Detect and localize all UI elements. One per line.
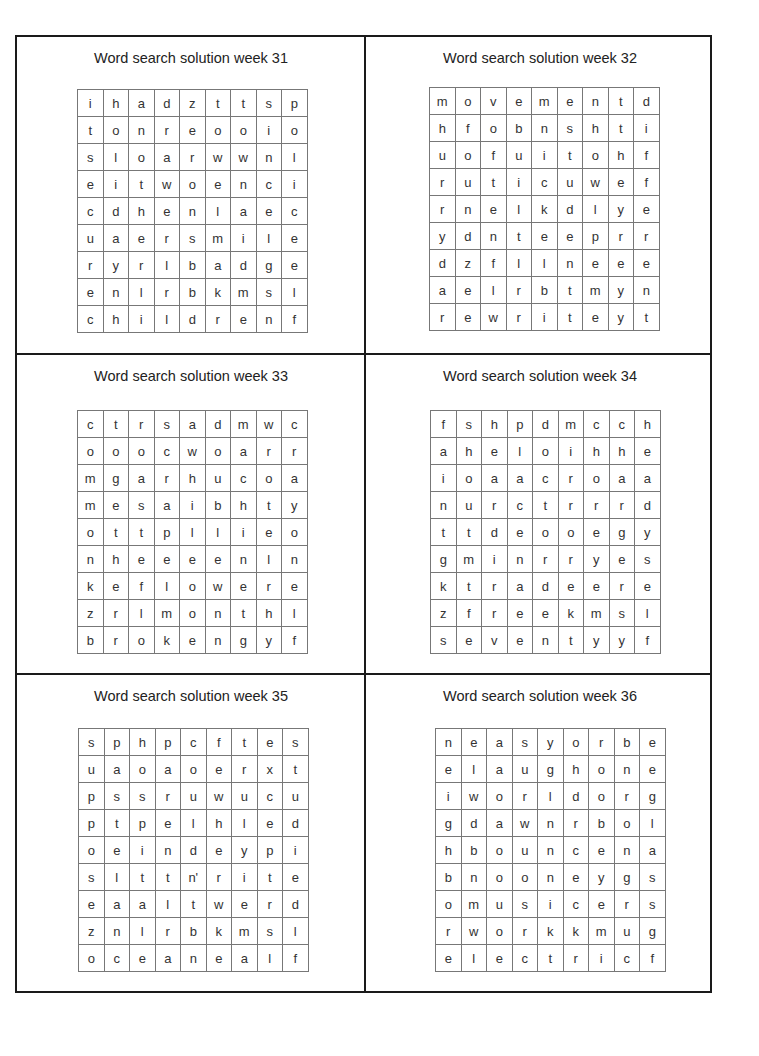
grid-cell: i xyxy=(103,171,129,198)
grid-row: ryrlbadge xyxy=(78,252,308,279)
grid-cell: o xyxy=(78,438,104,465)
grid-cell: e xyxy=(103,492,129,519)
grid-cell: e xyxy=(608,169,634,196)
grid-cell: r xyxy=(103,627,129,654)
grid-cell: t xyxy=(104,810,130,837)
grid-cell: l xyxy=(532,250,558,277)
grid-cell: o xyxy=(455,142,481,169)
grid-cell: a xyxy=(507,465,533,492)
grid-cell: i xyxy=(129,306,155,333)
grid-cell: s xyxy=(257,918,283,945)
panel-title: Word search solution week 34 xyxy=(366,368,714,384)
grid-cell: r xyxy=(206,864,232,891)
grid-cell: e xyxy=(533,600,559,627)
grid-cell: t xyxy=(608,115,634,142)
grid-cell: n xyxy=(256,144,282,171)
grid-cell: w xyxy=(256,411,282,438)
grid-cell: l xyxy=(507,438,533,465)
word-grid: sphpcftesuaoaoerxtpssruwucuptpelhledoein… xyxy=(78,728,309,972)
grid-cell: l xyxy=(506,250,532,277)
grid-row: ioaacroaa xyxy=(431,465,661,492)
grid-cell: v xyxy=(481,88,507,115)
grid-cell: h xyxy=(482,411,508,438)
grid-cell: e xyxy=(455,277,481,304)
grid-cell: n xyxy=(614,837,640,864)
grid-cell: l xyxy=(180,519,206,546)
grid-cell: a xyxy=(129,90,155,117)
grid-cell: e xyxy=(436,945,462,972)
panel-week-31: Word search solution week 31 ihadzttspto… xyxy=(17,37,365,355)
grid-cell: m xyxy=(589,918,615,945)
grid-cell: t xyxy=(129,519,155,546)
grid-cell: r xyxy=(155,918,181,945)
grid-cell: n xyxy=(538,837,564,864)
grid-cell: e xyxy=(130,945,156,972)
grid-cell: n xyxy=(538,810,564,837)
grid-cell: e xyxy=(436,756,462,783)
grid-cell: r xyxy=(589,729,615,756)
grid-cell: y xyxy=(256,627,282,654)
grid-cell: n xyxy=(436,729,462,756)
grid-cell: o xyxy=(79,837,105,864)
grid-cell: d xyxy=(455,223,481,250)
grid-cell: t xyxy=(481,169,507,196)
grid-cell: t xyxy=(557,277,583,304)
grid-cell: c xyxy=(533,465,559,492)
grid-cell: s xyxy=(78,144,104,171)
grid-cell: l xyxy=(282,279,308,306)
grid-cell: s xyxy=(154,411,180,438)
grid-cell: n xyxy=(231,171,257,198)
grid-cell: e xyxy=(205,171,231,198)
grid-cell: s xyxy=(456,411,482,438)
grid-cell: a xyxy=(487,810,513,837)
grid-cell: e xyxy=(584,573,610,600)
grid-cell: i xyxy=(538,891,564,918)
grid-cell: t xyxy=(557,142,583,169)
grid-cell: i xyxy=(256,117,282,144)
grid-cell: o xyxy=(563,729,589,756)
grid-cell: s xyxy=(640,891,666,918)
grid-cell: r xyxy=(430,196,456,223)
grid-cell: n xyxy=(181,945,207,972)
grid-cell: e xyxy=(283,864,309,891)
grid-cell: a xyxy=(130,891,156,918)
grid-cell: a xyxy=(635,465,661,492)
grid-cell: t xyxy=(232,729,258,756)
grid-cell: e xyxy=(155,810,181,837)
grid-cell: t xyxy=(130,864,156,891)
grid-cell: h xyxy=(231,492,257,519)
grid-cell: l xyxy=(461,945,487,972)
grid-cell: t xyxy=(456,573,482,600)
grid-row: enlrbkmsl xyxy=(78,279,308,306)
grid-cell: y xyxy=(584,546,610,573)
grid-cell: r xyxy=(257,891,283,918)
grid-cell: x xyxy=(257,756,283,783)
grid-row: zfreekmsl xyxy=(431,600,661,627)
grid-cell: g xyxy=(256,252,282,279)
panel-title: Word search solution week 32 xyxy=(366,50,714,66)
grid-cell: n xyxy=(231,546,257,573)
grid-cell: c xyxy=(532,169,558,196)
grid-cell: r xyxy=(155,783,181,810)
panel-week-32: Word search solution week 32 movementdhf… xyxy=(366,37,714,355)
grid-cell: w xyxy=(180,438,206,465)
grid-cell: l xyxy=(232,810,258,837)
grid-row: elaughone xyxy=(436,756,666,783)
panel-title: Word search solution week 31 xyxy=(17,50,365,66)
grid-cell: t xyxy=(634,304,660,331)
grid-cell: r xyxy=(584,492,610,519)
grid-cell: o xyxy=(79,945,105,972)
grid-cell: i xyxy=(130,837,156,864)
grid-cell: i xyxy=(232,864,258,891)
grid-row: ottpllieo xyxy=(78,519,308,546)
grid-cell: e xyxy=(635,438,661,465)
grid-cell: k xyxy=(431,573,457,600)
grid-cell: n xyxy=(583,88,609,115)
grid-cell: c xyxy=(512,945,538,972)
grid-cell: g xyxy=(231,627,257,654)
grid-cell: a xyxy=(232,945,258,972)
grid-cell: e xyxy=(634,250,660,277)
grid-cell: e xyxy=(231,306,257,333)
grid-cell: c xyxy=(563,837,589,864)
grid-cell: d xyxy=(180,306,206,333)
